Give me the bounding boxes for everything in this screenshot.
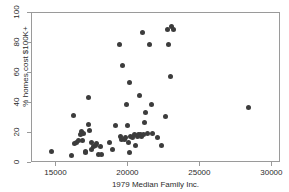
y-tick-label: 20 (13, 125, 21, 139)
data-point (83, 150, 88, 155)
data-point (86, 122, 91, 127)
data-point (125, 123, 130, 128)
data-point (86, 95, 91, 100)
data-point (166, 42, 171, 47)
data-point (113, 123, 118, 128)
x-tick-mark (199, 162, 200, 166)
data-point (49, 149, 54, 154)
y-tick-label: 60 (13, 65, 21, 79)
data-point (150, 131, 155, 136)
data-point (117, 42, 122, 47)
y-tick-label: 100 (13, 5, 21, 19)
data-point (163, 114, 168, 119)
data-point (87, 128, 92, 133)
data-point (145, 131, 150, 136)
data-point (120, 63, 125, 68)
x-tick-label: 25000 (177, 168, 221, 177)
data-point (99, 152, 104, 157)
data-point (71, 113, 76, 118)
data-point (98, 144, 103, 149)
x-tick-mark (127, 162, 128, 166)
data-point (140, 30, 145, 35)
data-point (124, 102, 129, 107)
data-point (127, 150, 132, 155)
x-tick-label: 15000 (33, 168, 77, 177)
data-point (143, 110, 148, 115)
data-point (155, 135, 160, 140)
x-tick-label: 20000 (105, 168, 149, 177)
data-point (149, 102, 154, 107)
data-point (80, 138, 85, 143)
data-point (81, 131, 86, 136)
data-point (107, 140, 112, 145)
data-point (126, 140, 131, 145)
data-point (246, 105, 251, 110)
data-point (168, 74, 173, 79)
data-points-layer (32, 13, 281, 163)
y-tick-label: 0 (13, 155, 21, 169)
plot-area (31, 12, 280, 162)
data-point (110, 147, 115, 152)
x-tick-label: 30000 (249, 168, 289, 177)
data-point (133, 143, 138, 148)
data-point (137, 93, 142, 98)
y-tick-label: 40 (13, 95, 21, 109)
y-tick-label: 80 (13, 35, 21, 49)
y-tick-mark (27, 162, 31, 163)
x-tick-mark (55, 162, 56, 166)
data-point (147, 42, 152, 47)
data-point (171, 27, 176, 32)
data-point (69, 153, 74, 158)
x-tick-mark (271, 162, 272, 166)
y-axis-title: % homes cost $100K+ (21, 0, 30, 142)
data-point (159, 143, 164, 148)
scatter-chart-figure: % homes cost $100K+ 020406080100 1500020… (0, 0, 289, 192)
data-point (142, 120, 147, 125)
x-axis-title: 1979 Median Family Inc. (31, 180, 280, 189)
data-point (127, 80, 132, 85)
